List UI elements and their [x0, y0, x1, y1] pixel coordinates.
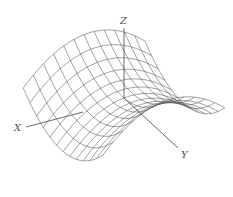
x-axis-label: X	[13, 122, 22, 133]
x-axis-line	[26, 112, 83, 127]
saddle-surface-figure: Z X Y	[0, 0, 233, 197]
y-axis-label: Y	[181, 149, 189, 160]
y-axis-line	[124, 98, 178, 148]
mesh-line	[96, 100, 218, 158]
mesh-line	[50, 79, 172, 137]
mesh-line	[145, 41, 225, 114]
mesh-line	[125, 32, 205, 105]
mesh-line	[70, 98, 192, 156]
z-axis-label: Z	[119, 15, 128, 26]
mesh-line	[33, 75, 113, 148]
